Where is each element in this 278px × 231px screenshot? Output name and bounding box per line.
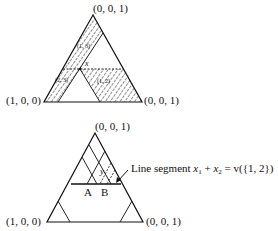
corner-line-right xyxy=(120,201,132,222)
point-x-marker xyxy=(79,68,82,71)
figure: (0, 0, 1) (1, 0, 0) (0, 0, 1) x (1, 3) (… xyxy=(0,0,278,231)
bottom-simplex-diagram: (0, 0, 1) (1, 0, 0) (0, 0, 1) y A B Line… xyxy=(6,120,274,228)
point-b-label: B xyxy=(101,186,108,198)
right-vertex-label: (0, 0, 1) xyxy=(146,215,181,228)
top-simplex-diagram: (0, 0, 1) (1, 0, 0) (0, 0, 1) x (1, 3) (… xyxy=(6,2,179,107)
point-y-label: y xyxy=(99,166,104,176)
top-vertex-label: (0, 0, 1) xyxy=(93,2,128,15)
left-vertex-label: (1, 0, 0) xyxy=(6,215,41,228)
corner-line-left xyxy=(58,201,70,222)
bottom-triangle-outline xyxy=(47,133,143,222)
right-vertex-label: (0, 0, 1) xyxy=(144,94,179,107)
left-vertex-label: (1, 0, 0) xyxy=(6,94,41,107)
region-label-upper: (1, 3) xyxy=(77,43,90,50)
line-segment-annotation: Line segment x1 + x2 = v({1, 2}) xyxy=(131,162,274,176)
region-label-lower-left: (2, 3) xyxy=(55,77,68,84)
point-a-label: A xyxy=(84,186,92,198)
top-vertex-label: (0, 0, 1) xyxy=(95,120,130,133)
inner-line xyxy=(89,145,111,184)
region-label-lower-right: (1, 2) xyxy=(97,78,110,85)
dashed-inner-line xyxy=(107,170,115,184)
point-x-label: x xyxy=(84,59,89,68)
